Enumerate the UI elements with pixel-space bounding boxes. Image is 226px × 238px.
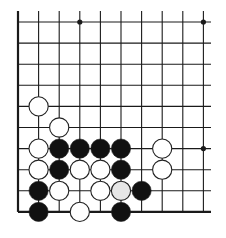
black-stone — [50, 160, 69, 179]
black-stone — [70, 139, 89, 158]
black-stone — [111, 202, 130, 221]
white-stone — [70, 202, 89, 221]
white-stone — [153, 139, 172, 158]
star-point-icon — [201, 146, 206, 151]
black-stone — [111, 160, 130, 179]
white-stone — [91, 181, 110, 200]
white-stone — [111, 181, 130, 200]
white-stone — [50, 181, 69, 200]
white-stone — [29, 139, 48, 158]
go-board — [0, 0, 226, 238]
white-stone — [153, 160, 172, 179]
white-stone — [29, 160, 48, 179]
star-point-icon — [77, 19, 82, 24]
white-stone — [70, 160, 89, 179]
white-stone — [29, 97, 48, 116]
star-point-icon — [201, 19, 206, 24]
white-stone — [91, 160, 110, 179]
black-stone — [91, 139, 110, 158]
black-stone — [50, 139, 69, 158]
black-stone — [29, 181, 48, 200]
black-stone — [111, 139, 130, 158]
white-stone — [50, 118, 69, 137]
black-stone — [132, 181, 151, 200]
black-stone — [29, 202, 48, 221]
